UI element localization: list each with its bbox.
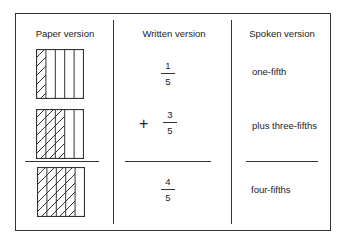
header-spoken-version: Spoken version [236,28,328,39]
numerator: 1 [165,60,170,71]
fraction-one-fifth: 1 5 [158,60,178,87]
header-paper-version: Paper version [20,28,110,39]
denominator: 5 [165,76,170,87]
fraction-bar-three-fifths [36,109,84,159]
denominator: 5 [167,125,172,136]
numerator: 3 [167,109,172,120]
sum-line-written [125,161,211,162]
fraction-bar [163,122,177,123]
sum-line-paper [25,161,99,162]
fraction-four-fifths: 4 5 [158,176,178,203]
denominator: 5 [165,192,170,203]
fraction-bar [161,73,175,74]
fraction-bar-four-fifths [37,167,85,217]
spoken-plus-three-fifths: plus three-fifths [252,120,317,131]
column-divider-2 [231,20,232,224]
fraction-bar [161,189,175,190]
spoken-one-fifth: one-fifth [252,66,286,77]
fraction-three-fifths: 3 5 [160,109,180,136]
sum-line-spoken [246,161,318,162]
column-divider-1 [113,20,114,224]
spoken-four-fifths: four-fifths [251,184,291,195]
header-written-version: Written version [118,28,230,39]
numerator: 4 [165,176,170,187]
fraction-bar-one-fifth [36,49,84,99]
plus-sign: + [139,116,148,132]
